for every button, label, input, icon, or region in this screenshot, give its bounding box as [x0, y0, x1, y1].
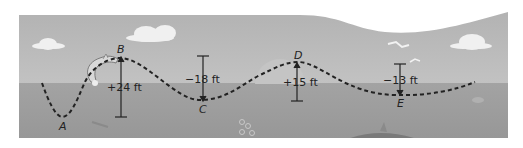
measure-CD-label: +15 ft: [283, 77, 318, 88]
measure-DE-label: −13 ft: [383, 75, 418, 86]
point-A-label: A: [59, 121, 67, 132]
point-B-label: B: [117, 44, 125, 55]
point-E-label: E: [397, 98, 404, 109]
ocean-scene: [0, 0, 523, 148]
measure-AB-label: +24 ft: [107, 82, 142, 93]
point-C-label: C: [199, 104, 207, 115]
crab-icon: [472, 97, 484, 103]
measure-BC-label: −18 ft: [185, 74, 220, 85]
point-D-label: D: [294, 50, 302, 61]
